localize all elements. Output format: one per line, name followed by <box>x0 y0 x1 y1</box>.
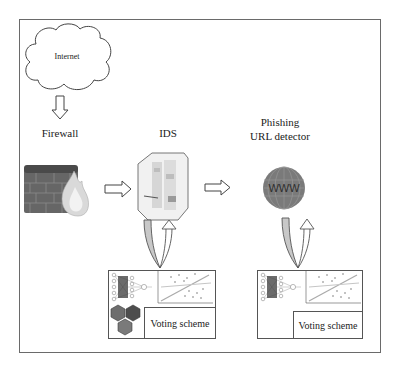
internet-label: Internet <box>47 50 87 63</box>
voting-scheme-label: Voting scheme <box>144 307 216 339</box>
scatter-plot-icon <box>157 271 214 305</box>
server-appliance-icon <box>138 152 190 222</box>
hexagon-cluster-icon <box>109 304 143 338</box>
neural-network-icon <box>110 272 156 302</box>
loop-arrow-icon <box>280 216 320 270</box>
arrow-right-icon <box>205 180 231 195</box>
phishing-label-line1: Phishing <box>250 116 310 129</box>
neural-network-icon <box>259 272 305 302</box>
globe-text: WWW <box>268 182 300 194</box>
www-globe-icon: WWW <box>262 166 306 210</box>
loop-arrow-icon <box>142 218 182 270</box>
phishing-label-line2: URL detector <box>245 130 315 143</box>
ids-label: IDS <box>148 127 188 140</box>
arrow-down-icon <box>52 96 68 120</box>
arrow-right-icon <box>105 181 132 197</box>
firewall-label: Firewall <box>30 127 90 140</box>
voting-scheme-label: Voting scheme <box>293 311 363 339</box>
firewall-icon <box>24 163 90 217</box>
scatter-plot-icon <box>305 271 362 305</box>
